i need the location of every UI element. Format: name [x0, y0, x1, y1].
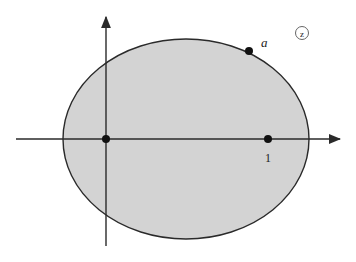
point-a-label: a	[261, 35, 268, 50]
point-one-label: 1	[265, 151, 271, 165]
origin-point	[102, 135, 110, 143]
plane-label-text: z	[300, 29, 304, 39]
plane-label: z	[296, 27, 309, 40]
complex-plane-diagram: a 1 z	[0, 0, 356, 262]
point-a	[245, 47, 253, 55]
diagram-svg: a 1 z	[0, 0, 356, 262]
point-one	[264, 135, 272, 143]
